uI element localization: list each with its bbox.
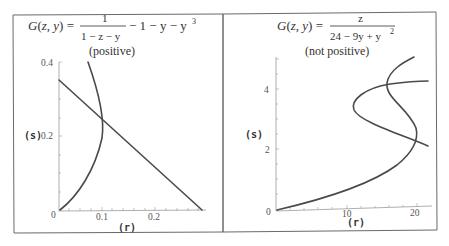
left-title-numerator: 1: [102, 12, 108, 24]
left-x-tick-0-2: 0.2: [148, 212, 160, 222]
left-panel: G(z, y) = 1 1 − z − y − 1 − y − y 3 (pos…: [24, 12, 206, 233]
left-title-lhs: G(z, y) =: [28, 18, 74, 33]
right-x-tick-20: 20: [410, 208, 420, 218]
right-x-axis: [276, 206, 432, 211]
right-title-exponent: 2: [390, 27, 394, 36]
left-x-tick-0: 0: [51, 210, 56, 220]
left-line-series: [59, 80, 202, 210]
right-y-label: (s): [245, 129, 263, 140]
right-y-tick-2: 2: [265, 145, 270, 155]
figure: G(z, y) = 1 1 − z − y − 1 − y − y 3 (pos…: [0, 0, 449, 246]
right-panel: G(z, y) = z 24 − 9y + y 2 (not positive): [245, 12, 432, 228]
left-y-label: (s): [24, 130, 42, 141]
right-x-tick-0: 0: [266, 207, 271, 217]
left-x-axis: [59, 210, 206, 211]
left-curve-series: [60, 62, 103, 210]
left-title-rest: − 1 − y − y: [129, 18, 187, 33]
right-ticks: [276, 59, 417, 210]
right-title-numerator: z: [358, 12, 363, 24]
right-title-lhs: G(z, y) =: [277, 18, 323, 33]
right-title-denominator: 24 − 9y + y: [330, 30, 381, 42]
left-y-tick-0-4: 0.4: [41, 58, 53, 68]
left-title-exponent: 3: [192, 17, 196, 26]
right-y-tick-4: 4: [264, 85, 269, 95]
left-subtitle: (positive): [89, 44, 135, 58]
left-title-denominator: 1 − z − y: [81, 30, 121, 42]
right-x-label: (r): [347, 217, 365, 228]
left-x-label: (r): [118, 222, 136, 233]
left-y-tick-0-2: 0.2: [41, 131, 53, 141]
left-x-tick-0-1: 0.1: [96, 212, 108, 222]
right-subtitle: (not positive): [305, 44, 369, 58]
